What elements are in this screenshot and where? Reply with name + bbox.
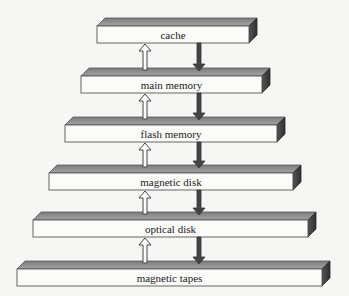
slab-top-face: [65, 117, 285, 125]
slab-top-face: [17, 261, 330, 269]
level-label: magnetic disk: [140, 176, 202, 188]
up-arrow-icon: [139, 143, 151, 167]
slab-top-face: [97, 18, 257, 26]
down-arrow-icon: [193, 190, 205, 215]
up-arrow-icon: [139, 238, 151, 263]
up-arrow-icon: [139, 44, 151, 70]
up-arrow-icon: [139, 191, 151, 214]
slab-top-face: [33, 212, 316, 220]
storage-hierarchy-diagram: cachemain memoryflash memorymagnetic dis…: [0, 0, 349, 296]
slab-layer: [17, 18, 330, 286]
slab-top-face: [81, 68, 270, 76]
down-arrow-icon: [193, 142, 205, 168]
down-arrow-icon: [193, 93, 205, 120]
level-label: flash memory: [141, 128, 202, 140]
level-label: optical disk: [145, 223, 197, 235]
slab-top-face: [49, 165, 301, 173]
up-arrow-icon: [139, 94, 151, 119]
level-label: magnetic tapes: [137, 272, 203, 284]
level-label: cache: [160, 29, 185, 41]
down-arrow-icon: [193, 237, 205, 264]
level-label: main memory: [141, 79, 203, 91]
down-arrow-icon: [193, 43, 205, 71]
